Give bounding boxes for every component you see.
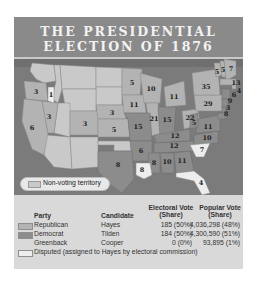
map-svg: 3 1 3 6 3 3 5 5 11 15 6 8 8 10 21 11 15 … bbox=[14, 59, 243, 195]
svg-text:8: 8 bbox=[140, 166, 145, 174]
candidate-cooper: Cooper bbox=[101, 239, 123, 246]
svg-text:5: 5 bbox=[130, 79, 135, 87]
nonvoting-swatch bbox=[28, 181, 41, 188]
party-democrat: Democrat bbox=[34, 230, 63, 237]
svg-text:13: 13 bbox=[231, 79, 241, 87]
disputed-swatch bbox=[18, 250, 33, 257]
popular-hayes: 4,036,298 (48%) bbox=[186, 221, 240, 228]
svg-text:8: 8 bbox=[152, 159, 157, 167]
us-map: 3 1 3 6 3 3 5 5 11 15 6 8 8 10 21 11 15 … bbox=[14, 59, 243, 195]
svg-text:11: 11 bbox=[129, 101, 138, 109]
svg-text:29: 29 bbox=[203, 100, 213, 108]
svg-text:5: 5 bbox=[112, 126, 117, 134]
indian-territory bbox=[98, 141, 132, 151]
svg-text:6: 6 bbox=[139, 147, 144, 155]
svg-text:10: 10 bbox=[146, 85, 156, 93]
party-republican: Republican bbox=[34, 221, 68, 228]
republican-swatch bbox=[18, 223, 33, 230]
svg-text:12: 12 bbox=[169, 142, 178, 150]
svg-text:8: 8 bbox=[224, 110, 229, 118]
svg-text:5: 5 bbox=[221, 66, 226, 74]
svg-text:5: 5 bbox=[215, 68, 220, 76]
svg-text:21: 21 bbox=[149, 115, 158, 123]
header-electoral-1: Electoral Vote bbox=[146, 204, 196, 211]
svg-text:3: 3 bbox=[34, 88, 39, 96]
svg-text:35: 35 bbox=[201, 83, 211, 91]
party-greenback: Greenback bbox=[34, 239, 67, 246]
header-candidate: Candidate bbox=[101, 212, 134, 219]
svg-text:10: 10 bbox=[162, 158, 172, 166]
results-legend: Party Candidate Electoral Vote (Share) P… bbox=[14, 197, 243, 269]
svg-text:6: 6 bbox=[232, 91, 237, 99]
nonvoting-territory-key: Non-voting territory bbox=[20, 177, 110, 191]
header-popular-1: Popular Vote bbox=[198, 204, 242, 211]
arizona-territory bbox=[44, 135, 72, 169]
electoral-tilden: 184 (50%) bbox=[144, 230, 192, 237]
dakota-territory-south bbox=[96, 87, 122, 105]
popular-cooper: 93,895 (1%) bbox=[186, 239, 240, 246]
washington-territory bbox=[30, 63, 56, 83]
state-florida bbox=[176, 171, 210, 195]
candidate-hayes: Hayes bbox=[101, 221, 120, 228]
svg-text:8: 8 bbox=[116, 161, 121, 169]
header-electoral-2: (Share) bbox=[146, 211, 196, 218]
svg-text:11: 11 bbox=[177, 157, 186, 165]
svg-text:10: 10 bbox=[202, 134, 212, 142]
svg-text:1: 1 bbox=[49, 91, 54, 99]
svg-text:15: 15 bbox=[133, 123, 143, 131]
new-mexico-territory bbox=[70, 137, 98, 169]
title-line-1: THE PRESIDENTIAL bbox=[14, 24, 243, 39]
democrat-swatch bbox=[18, 232, 33, 239]
svg-text:11: 11 bbox=[203, 123, 212, 131]
title-line-2: ELECTION OF 1876 bbox=[14, 39, 243, 54]
svg-text:7: 7 bbox=[229, 65, 234, 73]
svg-text:3: 3 bbox=[83, 120, 88, 128]
montana-territory bbox=[60, 65, 96, 89]
svg-text:11: 11 bbox=[169, 93, 178, 101]
svg-text:5: 5 bbox=[192, 119, 197, 127]
svg-text:7: 7 bbox=[200, 146, 205, 154]
svg-text:3: 3 bbox=[110, 109, 115, 117]
header-popular-2: (Share) bbox=[198, 211, 242, 218]
electoral-hayes: 185 (50%) bbox=[144, 221, 192, 228]
header-party: Party bbox=[34, 212, 51, 219]
disputed-note: Disputed (assigned to Hayes by electoral… bbox=[34, 248, 198, 255]
svg-text:6: 6 bbox=[30, 124, 35, 132]
svg-text:12: 12 bbox=[170, 132, 179, 140]
electoral-cooper: 0 (0%) bbox=[144, 239, 192, 246]
nonvoting-label: Non-voting territory bbox=[43, 179, 101, 186]
svg-text:4: 4 bbox=[199, 179, 204, 187]
svg-text:15: 15 bbox=[162, 116, 172, 124]
election-map-panel: THE PRESIDENTIAL ELECTION OF 1876 bbox=[14, 17, 243, 269]
candidate-tilden: Tilden bbox=[101, 230, 119, 237]
svg-text:4: 4 bbox=[237, 87, 242, 95]
svg-text:3: 3 bbox=[47, 113, 52, 121]
title-bar: THE PRESIDENTIAL ELECTION OF 1876 bbox=[14, 17, 243, 59]
dakota-territory-north bbox=[96, 67, 122, 87]
popular-tilden: 4,300,590 (51%) bbox=[186, 230, 240, 237]
